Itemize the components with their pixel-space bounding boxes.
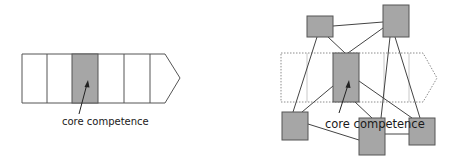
core-competence-label-right: core competence [325, 117, 425, 131]
network-node-top-right [383, 5, 409, 37]
diagram-canvas [0, 0, 458, 161]
network-node-top-left [307, 16, 333, 37]
network-node-bottom-left [282, 112, 308, 140]
left-value-chain [22, 54, 180, 114]
chain-outline [22, 54, 180, 103]
right-network [281, 5, 437, 155]
core-competence-label-left: core competence [62, 116, 149, 127]
network-node-core [333, 53, 359, 102]
chain-cell-core [72, 54, 98, 103]
